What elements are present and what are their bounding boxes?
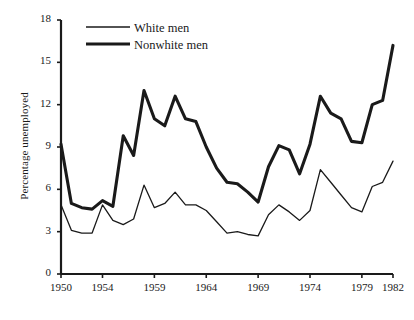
x-axis-tick-label: 1982: [373, 281, 413, 293]
x-axis-tick-label: 1959: [134, 281, 174, 293]
legend-label-white-men: White men: [134, 21, 189, 36]
y-axis-tick-label: 18: [29, 12, 51, 24]
y-axis-tick-label: 9: [29, 139, 51, 151]
axes: [57, 20, 393, 278]
x-axis-tick-label: 1954: [83, 281, 123, 293]
series-line-white-men: [61, 161, 393, 236]
y-axis-tick-label: 0: [29, 266, 51, 278]
y-axis-tick-label: 3: [29, 224, 51, 236]
x-axis-tick-label: 1950: [41, 281, 81, 293]
y-axis-tick-label: 12: [29, 97, 51, 109]
legend-label-nonwhite-men: Nonwhite men: [134, 38, 208, 53]
data-series-group: [61, 45, 393, 236]
y-axis-tick-label: 15: [29, 54, 51, 66]
x-axis-tick-label: 1969: [238, 281, 278, 293]
x-axis-tick-label: 1974: [290, 281, 330, 293]
y-axis-tick-label: 6: [29, 181, 51, 193]
series-line-nonwhite-men: [61, 45, 393, 209]
x-axis-tick-label: 1964: [186, 281, 226, 293]
chart-figure: Percentage unemployed 0369121518 1950195…: [0, 0, 414, 320]
legend-sample-lines: [86, 27, 130, 44]
